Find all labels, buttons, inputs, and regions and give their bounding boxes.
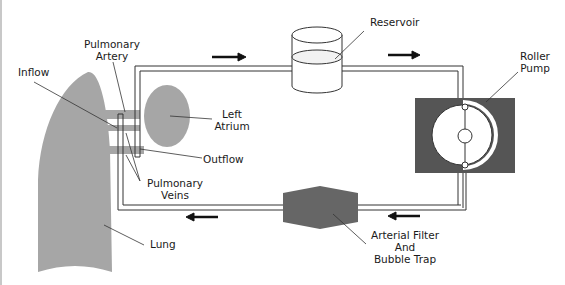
label-pulmonary-veins: Pulmonary Veins <box>140 177 210 201</box>
roller-top <box>462 104 468 110</box>
label-lung: Lung <box>150 238 176 250</box>
label-arterial-filter: Arterial Filter And Bubble Trap <box>360 229 450 265</box>
label-inflow: Inflow <box>18 66 49 78</box>
label-outflow: Outflow <box>203 153 244 165</box>
label-roller-pump: Roller Pump <box>515 50 555 74</box>
arterial-filter <box>283 186 358 229</box>
label-left-atrium: Left Atrium <box>212 108 252 132</box>
left-atrium <box>144 85 190 147</box>
reservoir <box>292 27 342 93</box>
roller-pump-hub <box>458 129 472 143</box>
label-reservoir: Reservoir <box>370 16 419 28</box>
pulmonary-vein-bar-lower <box>104 146 144 154</box>
roller-bottom <box>462 162 468 168</box>
label-pulmonary-artery: Pulmonary Artery <box>70 38 154 62</box>
lung-shape <box>38 72 112 272</box>
